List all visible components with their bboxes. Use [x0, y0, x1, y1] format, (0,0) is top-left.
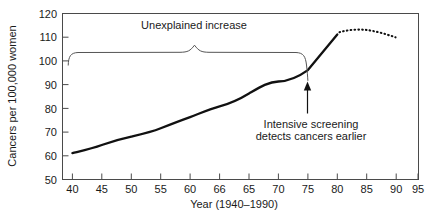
x-tick-label: 50 [125, 183, 137, 195]
plot-frame [63, 14, 419, 180]
y-tick-label: 110 [39, 31, 57, 43]
y-tick-label: 120 [39, 8, 57, 20]
x-tick-label: 66 [213, 183, 225, 195]
y-axis-title: Cancers per 100,000 women [6, 25, 18, 166]
series-projected-incidence [340, 30, 396, 38]
x-tick-label: 95 [412, 183, 424, 195]
y-tick-label: 90 [45, 79, 57, 91]
x-tick-label: 85 [361, 183, 373, 195]
y-tick-label: 50 [45, 174, 57, 186]
y-axis-ticks [63, 14, 69, 180]
x-axis-tick-labels: 40 45 50 55 60 66 65 70 75 80 85 90 95 [66, 183, 424, 195]
x-tick-label: 70 [272, 183, 284, 195]
intensive-screening-arrow [304, 82, 311, 114]
annotation-intensive-screening: Intensive screening detects cancers earl… [256, 118, 367, 142]
x-tick-label: 40 [66, 183, 78, 195]
x-axis-ticks [72, 174, 418, 180]
y-tick-label: 100 [39, 55, 57, 67]
x-tick-label: 45 [96, 183, 108, 195]
x-tick-label: 60 [184, 183, 196, 195]
cancer-incidence-chart: 50 60 70 80 90 100 110 120 Cancers per 1… [0, 0, 432, 217]
x-tick-label: 90 [390, 183, 402, 195]
annotation-unexplained-increase: Unexplained increase [141, 19, 247, 31]
x-axis-title: Year (1940–1990) [190, 198, 278, 210]
y-tick-label: 70 [45, 126, 57, 138]
y-axis-tick-labels: 50 60 70 80 90 100 110 120 [39, 8, 57, 186]
x-tick-label: 80 [331, 183, 343, 195]
y-tick-label: 80 [45, 103, 57, 115]
annotation-intensive-screening-line1: Intensive screening [264, 118, 359, 130]
x-tick-label: 55 [155, 183, 167, 195]
unexplained-increase-brace [68, 45, 308, 81]
x-tick-label: 75 [302, 183, 314, 195]
y-tick-label: 60 [45, 150, 57, 162]
annotation-intensive-screening-line2: detects cancers earlier [256, 130, 367, 142]
x-tick-label: 65 [243, 183, 255, 195]
